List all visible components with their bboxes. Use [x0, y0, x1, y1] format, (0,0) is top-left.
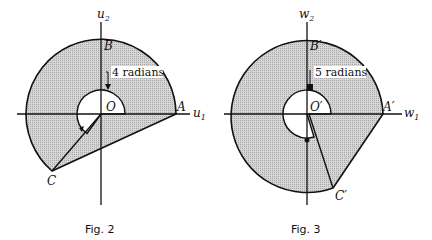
point-c-label: C′ [335, 189, 347, 203]
origin-o-label: O [106, 100, 116, 114]
point-b-label: B′ [309, 39, 322, 53]
axis-w2-label: w2 [299, 7, 314, 23]
point-b-label: B [103, 39, 113, 53]
figure-caption: Fig. 3 [291, 223, 321, 236]
angle-label: 5 radians [315, 66, 368, 79]
point-a-label: A [176, 100, 186, 114]
figure-caption: Fig. 2 [85, 223, 115, 236]
figure-2: u2 u1 B A C O 4 radians Fig. 2 [17, 7, 206, 236]
diagram-canvas: u2 u1 B A C O 4 radians Fig. 2 w2 w1 B′ … [0, 0, 432, 240]
axis-u1-label: u1 [193, 106, 206, 122]
angle-label: 4 radians [112, 66, 165, 79]
point-a-label: A′ [382, 100, 395, 114]
axis-u2-label: u2 [97, 7, 110, 23]
arrowhead-icon [305, 138, 310, 143]
point-c-label: C [47, 174, 56, 188]
origin-o-label: O′ [310, 100, 323, 114]
figure-3: w2 w1 B′ A′ C′ O′ 5 radians Fig. 3 [224, 7, 419, 236]
arrowhead-icon [307, 84, 313, 90]
axis-w1-label: w1 [404, 106, 419, 122]
